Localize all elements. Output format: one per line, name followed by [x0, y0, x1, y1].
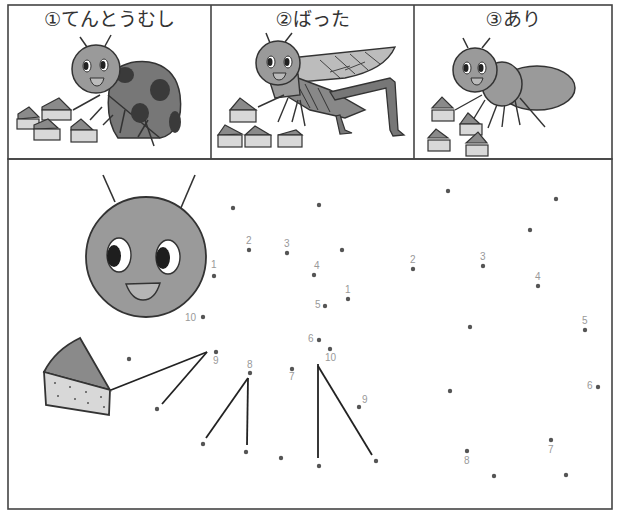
coloring-worksheet: 1234567891012345678910 ①てんとうむし ②ばった ③あり [0, 0, 620, 515]
dot-point[interactable] [583, 328, 587, 332]
dot-number-label: 1 [211, 259, 217, 270]
dot-point[interactable] [481, 264, 485, 268]
dot-point[interactable] [214, 350, 218, 354]
grasshopper-illustration [218, 33, 404, 147]
dot-number-label: 7 [289, 371, 295, 382]
dot-point[interactable] [317, 464, 321, 468]
dot-number-label: 1 [345, 284, 351, 295]
dot-point[interactable] [248, 371, 252, 375]
dot-point[interactable] [323, 304, 327, 308]
dot-point[interactable] [536, 284, 540, 288]
dot-number-label: 10 [325, 352, 337, 363]
dot-point[interactable] [554, 197, 558, 201]
dot-point[interactable] [468, 325, 472, 329]
dot-number-label: 5 [582, 315, 588, 326]
partial-ant-drawing [86, 175, 206, 317]
dot-point[interactable] [155, 407, 159, 411]
panel-title-ant: ③あり [414, 4, 612, 31]
dot-point[interactable] [328, 347, 332, 351]
dot-number-label: 2 [410, 254, 416, 265]
dot-point[interactable] [492, 474, 496, 478]
dot-number-label: 10 [185, 312, 197, 323]
dot-point[interactable] [212, 274, 216, 278]
dot-number-label: 8 [464, 455, 470, 466]
dot-number-label: 9 [362, 394, 368, 405]
dot-point[interactable] [231, 206, 235, 210]
dot-number-label: 2 [246, 235, 252, 246]
dot-point[interactable] [411, 267, 415, 271]
dot-number-label: 7 [548, 444, 554, 455]
dot-point[interactable] [244, 450, 248, 454]
panel-title-grasshopper: ②ばった [211, 4, 414, 31]
cake-slice [44, 338, 110, 415]
dot-number-label: 5 [315, 299, 321, 310]
pre-drawn-lines [111, 352, 372, 458]
dot-point[interactable] [340, 248, 344, 252]
dot-number-label: 6 [587, 380, 593, 391]
dot-number-label: 4 [314, 260, 320, 271]
dot-point[interactable] [346, 297, 350, 301]
dot-number-label: 8 [247, 359, 253, 370]
dot-point[interactable] [201, 315, 205, 319]
dot-point[interactable] [446, 189, 450, 193]
dot-point[interactable] [465, 449, 469, 453]
dot-point[interactable] [279, 456, 283, 460]
dot-point[interactable] [317, 338, 321, 342]
dot-point[interactable] [549, 438, 553, 442]
worksheet-canvas: 1234567891012345678910 [0, 0, 620, 515]
dot-point[interactable] [247, 248, 251, 252]
dot-point[interactable] [127, 357, 131, 361]
panel-title-ladybug: ①てんとうむし [8, 4, 211, 31]
dot-point[interactable] [448, 389, 452, 393]
dot-number-label: 3 [284, 238, 290, 249]
dot-number-label: 3 [480, 251, 486, 262]
ladybug-illustration [17, 35, 181, 146]
dot-number-label: 6 [308, 333, 314, 344]
dot-point[interactable] [357, 405, 361, 409]
dot-point[interactable] [317, 203, 321, 207]
dot-point[interactable] [285, 251, 289, 255]
dot-point[interactable] [201, 442, 205, 446]
dot-point[interactable] [374, 459, 378, 463]
dot-point[interactable] [312, 273, 316, 277]
ant-illustration [428, 38, 575, 156]
dot-point[interactable] [564, 473, 568, 477]
dot-point[interactable] [528, 228, 532, 232]
dot-point[interactable] [596, 385, 600, 389]
dot-number-label: 9 [213, 355, 219, 366]
dot-number-label: 4 [535, 271, 541, 282]
